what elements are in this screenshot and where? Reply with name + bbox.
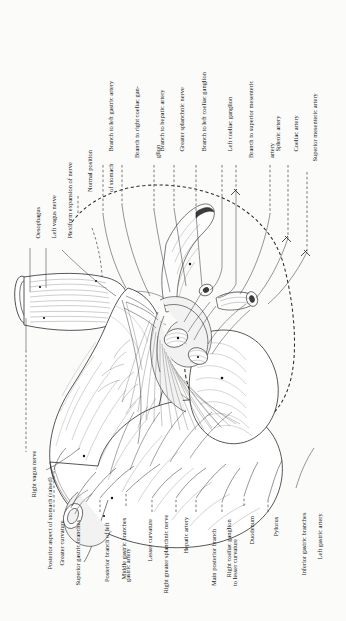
label-text: Inferior gastric branches [300,513,307,576]
anatomical-plate: Branch to left gastric artery Branch to … [0,0,346,621]
label-text: Main posterior branch [210,529,217,586]
label-text: Greater curvature [58,520,65,565]
label-middle-gastric-branches: Middle gastric branches [113,518,135,586]
label-text: Pylorus [272,517,279,537]
label-text: Splenic artery [274,116,281,152]
label-text: Hepatic artery [182,517,189,554]
label-left-gastric-artery: Left gastric artery [309,513,331,566]
label-text: Branch to hepatic artery [158,89,165,151]
label-text: Normal position [86,150,93,192]
label-text: Left gastric artery [316,513,323,559]
label-text: Branch to left gastric artery [107,81,114,152]
label-text: Right coeliac ganglion [225,519,232,577]
label-text: Posterior branch of left [103,522,110,582]
label-text: Branch to left coeliac ganglion [200,72,207,151]
label-text: Duodenum [248,516,255,545]
label-greater-splanchnic-nerve: Greater splanchnic nerve [171,87,193,158]
label-superior-gastric-branches: Superior gastric branches [67,520,89,592]
label-superior-mesenteric-artery: Superior mesenteric artery [304,93,326,168]
label-duodenum: Duodenum [241,516,263,551]
label-hepatic-artery: Hepatic artery [175,517,197,560]
leader-lines-top [103,165,307,304]
label-text: Oesophagus [34,207,41,238]
label-text: Right vagus nerve [30,451,37,498]
label-text-cont: of stomach [107,164,114,192]
label-text: Greater splanchnic nerve [178,87,185,151]
label-text: Lesser curvature [146,519,153,562]
label-normal-position-of-stomach: Normal position of stomach [72,150,128,192]
label-text: Coeliac artery [292,115,299,151]
label-text: Branch to right coeliac gan- [133,86,140,158]
label-text: Branch to superior mesenteric [247,81,254,158]
label-branch-to-hepatic-artery: Branch to hepatic artery [151,89,173,158]
label-text: Right greater splanchnic nerve [162,515,169,594]
label-right-greater-splanchnic-nerve: Right greater splanchnic nerve [155,515,177,600]
label-branch-to-left-coeliac-ganglion: Branch to left coeliac ganglion [193,72,215,158]
label-text: Middle gastric branches [120,518,127,580]
curve-tick-marks-icon [231,189,310,256]
label-right-coeliac-ganglion: Right coeliac ganglion [218,519,240,584]
label-text: Superior mesenteric artery [311,93,318,161]
label-pylorus: Pylorus [265,517,287,543]
label-text: Superior gastric branches [74,520,81,585]
label-text: Left vagus nerve [50,195,57,238]
